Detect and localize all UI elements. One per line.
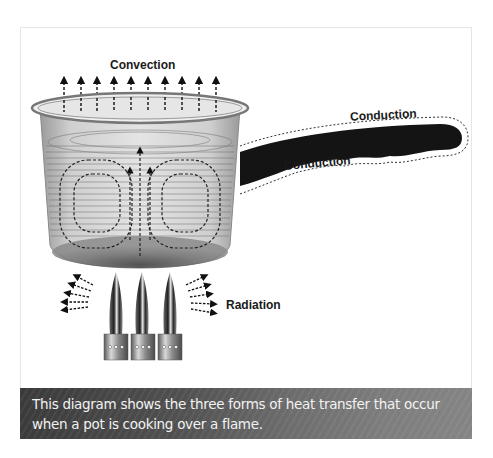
figure-caption: This diagram shows the three forms of he… xyxy=(20,388,472,439)
burner-flames xyxy=(104,272,182,360)
radiation-label: Radiation xyxy=(226,298,281,312)
convection-label: Convection xyxy=(110,58,175,72)
pot-handle xyxy=(240,117,468,194)
heat-transfer-diagram xyxy=(0,0,493,388)
caption-text: This diagram shows the three forms of he… xyxy=(32,396,440,432)
